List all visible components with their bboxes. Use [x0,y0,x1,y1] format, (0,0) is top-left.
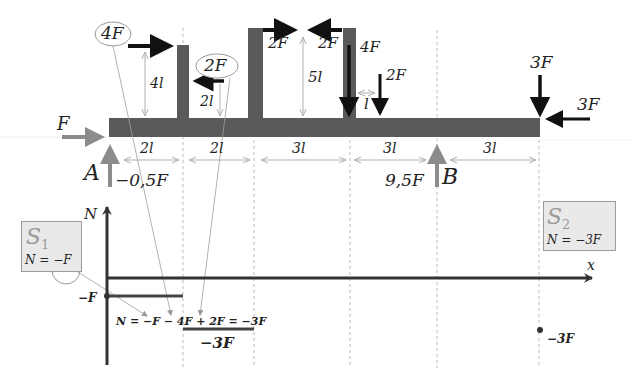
point-load-offset-label: l [364,97,369,112]
support-A-reaction: −0,5F [115,172,168,189]
post3-force-label: 2F [268,36,288,51]
post4-force-down-label: 4F [360,40,380,55]
section-2-title: S2 [547,206,570,231]
span-1: 2l [140,141,153,155]
section-1-formula: N = −F [25,254,72,266]
span-2: 2l [210,141,223,155]
y-axis-label: N [84,207,97,222]
post3-height-label: 5l [308,70,322,85]
post4-force-left-label: 2F [318,36,338,51]
section-1-box: S1 N = −F [21,221,82,272]
x-axis-label: x [587,258,595,272]
force-arrows [128,30,590,119]
post1-force-label: 4F [101,25,124,42]
end-horizontal-load-label: 3F [577,96,600,113]
left-value-label: −F [78,292,97,304]
span-5: 3l [483,141,496,155]
span-4: 3l [383,141,396,155]
support-B-reaction: 9,5F [385,172,424,189]
span-3: 3l [292,141,305,155]
equation-label: N = −F − 4F + 2F = −3F [116,316,266,327]
segment2-value-label: −3F [200,336,234,351]
end-vertical-load-label: 3F [530,54,553,71]
section-2-formula: N = −3F [547,234,601,246]
point-load-label: 2F [386,68,406,83]
section-2-box: S2 N = −3F [543,201,616,251]
right-point-label: −3F [547,333,574,345]
n-diagram [104,207,592,365]
left-force-label: F [57,115,70,133]
post2-force-label: 2F [204,57,227,74]
post1-height-label: 4l [150,76,163,90]
post2-height-label: 2l [200,94,213,108]
section-1-title: S1 [26,226,49,251]
support-A-label: A [84,162,100,184]
support-B-label: B [442,166,458,188]
